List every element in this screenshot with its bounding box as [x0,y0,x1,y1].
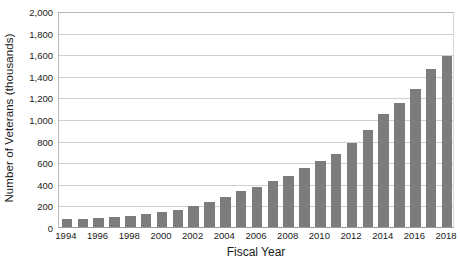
y-tick-label: 1,200 [29,93,53,104]
y-axis-title-label: Number of Veterans (thousands) [3,33,15,202]
bar [363,130,373,227]
bar [157,212,167,227]
bar [109,217,119,227]
x-tick-label: 2002 [182,230,203,241]
plot-area [58,12,454,228]
bar [93,218,103,227]
bar [410,89,420,227]
bar [78,219,88,227]
y-tick-label: 0 [48,223,53,234]
x-tick-label: 2016 [404,230,425,241]
y-axis-tick-labels: 2,0001,8001,6001,4001,2001,0008006004002… [18,0,56,235]
x-tick-label: 1996 [87,230,108,241]
y-tick-label: 1,800 [29,28,53,39]
bar [220,197,230,227]
x-tick-label: 2000 [150,230,171,241]
y-tick-label: 2,000 [29,7,53,18]
y-tick-label: 400 [37,179,53,190]
x-tick-label: 2008 [277,230,298,241]
x-tick-label: 1994 [55,230,76,241]
bar [378,114,388,227]
x-tick-label: 1998 [119,230,140,241]
bar [394,103,404,227]
bar [426,69,436,227]
bar [268,181,278,227]
x-tick-label: 2018 [436,230,457,241]
bar [188,206,198,227]
bar [204,202,214,227]
y-tick-label: 1,000 [29,115,53,126]
bar [62,219,72,227]
y-axis-title: Number of Veterans (thousands) [0,0,18,235]
x-tick-label: 2014 [372,230,393,241]
x-axis-tick-labels: 1994199619982000200220042006200820102012… [58,230,454,244]
x-axis-title: Fiscal Year [58,245,454,259]
x-tick-label: 2006 [245,230,266,241]
bar [442,56,452,227]
veterans-bar-chart: Number of Veterans (thousands) 2,0001,80… [0,0,460,265]
bar [252,187,262,228]
y-tick-label: 800 [37,136,53,147]
x-tick-label: 2012 [340,230,361,241]
y-tick-label: 200 [37,201,53,212]
bar [299,168,309,227]
y-tick-label: 1,600 [29,50,53,61]
x-tick-label: 2010 [309,230,330,241]
bar [125,216,135,227]
bar [347,143,357,227]
bar [141,214,151,228]
y-tick-label: 600 [37,158,53,169]
bar [173,210,183,227]
bar [283,176,293,227]
y-tick-label: 1,400 [29,71,53,82]
bar [315,161,325,227]
bars-series [59,12,453,227]
bar [236,191,246,227]
bar [331,154,341,227]
x-tick-label: 2004 [214,230,235,241]
